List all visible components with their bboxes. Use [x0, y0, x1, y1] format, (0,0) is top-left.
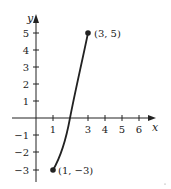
start-point-marker — [50, 167, 56, 173]
end-point-marker — [85, 30, 91, 36]
x-tick-label-1: 1 — [50, 124, 56, 135]
y-axis-arrow-icon — [33, 14, 39, 23]
end-point-label: (3, 5) — [94, 28, 121, 39]
function-graph: 1 3 4 5 6 x y 5 4 3 2 1 −1 −2 −3 (1, −3)… — [0, 0, 171, 189]
y-tick-label-2: 2 — [23, 79, 29, 90]
y-tick-label-1: 1 — [23, 96, 29, 107]
x-tick-label-6: 6 — [136, 124, 142, 135]
y-tick-label-4: 4 — [23, 45, 29, 56]
x-tick-label-3: 3 — [85, 124, 91, 135]
x-tick-label-4: 4 — [102, 124, 108, 135]
stray-mark — [164, 183, 165, 184]
y-axis-label: y — [26, 12, 34, 25]
start-point-label: (1, −3) — [58, 165, 93, 176]
y-tick-label-3: 3 — [23, 62, 29, 73]
y-tick-label-neg3: −3 — [14, 165, 29, 176]
y-tick-label-neg1: −1 — [14, 130, 29, 141]
x-tick-label-5: 5 — [119, 124, 125, 135]
function-curve — [53, 33, 88, 170]
x-axis-label: x — [152, 121, 159, 134]
x-axis — [12, 115, 156, 121]
y-tick-label-neg2: −2 — [14, 147, 29, 158]
y-tick-label-5: 5 — [23, 28, 29, 39]
y-axis — [33, 14, 39, 182]
